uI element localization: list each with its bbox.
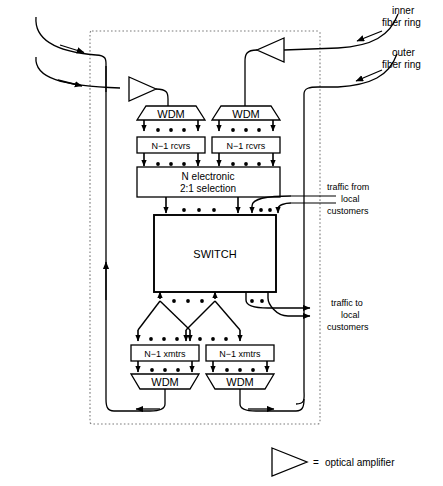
traffic-to-label-line1: traffic to bbox=[331, 298, 363, 308]
diagram-canvas: inner fiber ring outer fiber ring WDM N−… bbox=[0, 0, 443, 486]
outer-ring-outgoing-arrow-seg bbox=[356, 70, 382, 81]
wdm-top-left-label: WDM bbox=[157, 108, 185, 120]
wdm-top-right-label: WDM bbox=[232, 108, 260, 120]
traffic-from-customers-bus bbox=[252, 196, 336, 213]
optical-node-diagram: inner fiber ring outer fiber ring WDM N−… bbox=[0, 0, 443, 486]
wdm-bottom-right-label: WDM bbox=[226, 376, 254, 388]
inner-ring-label-line2: fiber ring bbox=[382, 17, 421, 28]
outer-ring-incoming-arrow-seg bbox=[58, 80, 82, 86]
xmtrs-left-label: N−1 xmtrs bbox=[144, 349, 186, 359]
inner-ring-incoming-curve bbox=[36, 17, 96, 55]
wdm-bottom-right-output-loop bbox=[240, 389, 304, 411]
traffic-from-label-line3: customers bbox=[327, 206, 369, 216]
fanout-cross-lines bbox=[138, 301, 240, 330]
rcvrs-left-label: N−1 rcvrs bbox=[152, 141, 191, 151]
bus-switch-to-fanout bbox=[160, 292, 215, 303]
legend-text: optical amplifier bbox=[325, 457, 395, 468]
bus-wdmR-to-rcvrsR bbox=[219, 120, 273, 132]
bus-xmtrsR-to-wdmR bbox=[213, 361, 267, 372]
xmtrs-right-label: N−1 xmtrs bbox=[219, 349, 261, 359]
wdm-bottom-left-label: WDM bbox=[151, 376, 179, 388]
outer-ring-label-line2: fiber ring bbox=[382, 59, 421, 70]
outer-ring-incoming-curve bbox=[36, 57, 120, 88]
inner-ring-label-line1: inner bbox=[392, 5, 415, 16]
traffic-to-label-line3: customers bbox=[327, 322, 369, 332]
amplifier-right-input bbox=[245, 50, 257, 106]
traffic-to-label-line2: local bbox=[341, 310, 360, 320]
traffic-to-customers-bus bbox=[246, 292, 310, 316]
selection-label-line1: N electronic bbox=[182, 171, 235, 182]
legend-equals-sign: = bbox=[313, 457, 319, 468]
rcvrs-right-label: N−1 rcvrs bbox=[227, 141, 266, 151]
bus-rcvrsR-to-selection bbox=[219, 153, 273, 166]
bus-xmtrsL-to-wdmL bbox=[138, 361, 192, 372]
inner-ring-outgoing-arrow-seg bbox=[357, 31, 382, 41]
amplifier-left-output bbox=[156, 89, 168, 106]
bus-selection-to-switch bbox=[166, 197, 238, 213]
optical-amplifier-left bbox=[129, 77, 156, 101]
optical-amplifier-right bbox=[257, 38, 284, 62]
legend-amplifier-icon bbox=[272, 448, 307, 476]
selection-label-line2: 2:1 selection bbox=[180, 183, 236, 194]
switch-label: SWITCH bbox=[193, 248, 236, 260]
inner-ring-outgoing-line bbox=[284, 48, 338, 50]
bus-to-xmtrs-left bbox=[138, 330, 190, 341]
bus-wdmL-to-rcvrsL bbox=[144, 120, 198, 132]
traffic-from-label-line2: local bbox=[341, 194, 360, 204]
bus-to-xmtrs-right bbox=[186, 330, 240, 341]
outer-ring-label-line1: outer bbox=[392, 47, 415, 58]
traffic-from-label-line1: traffic from bbox=[327, 182, 369, 192]
outer-ring-outgoing-riser bbox=[296, 87, 338, 404]
bus-rcvrsL-to-selection bbox=[144, 153, 198, 166]
